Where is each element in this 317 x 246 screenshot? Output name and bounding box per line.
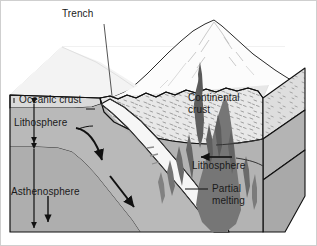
label-partial-melting-line1: Partial xyxy=(212,183,241,195)
label-continental-crust-line2: crust xyxy=(188,104,210,116)
label-continental-crust-line1: Continental xyxy=(188,92,240,104)
label-lithosphere-left: Lithosphere xyxy=(14,117,67,129)
label-trench: Trench xyxy=(62,8,93,20)
label-partial-melting-line2: melting xyxy=(212,195,245,207)
subduction-block-diagram: Trench Oceanic crust Continental crust L… xyxy=(0,0,317,246)
label-oceanic-crust: Oceanic crust xyxy=(19,94,81,106)
label-asthenosphere: Asthenosphere xyxy=(11,186,80,198)
label-lithosphere-right: Lithosphere xyxy=(192,160,245,172)
